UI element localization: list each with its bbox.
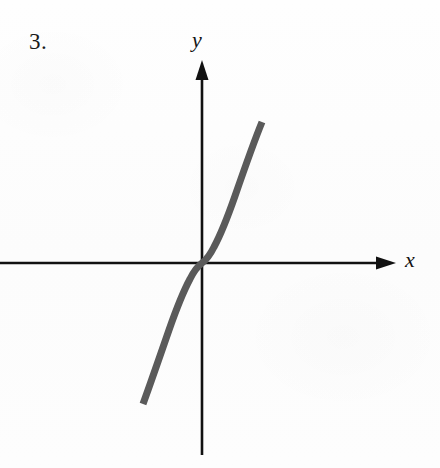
y-axis-label: y — [192, 29, 202, 51]
x-axis-arrowhead-icon — [376, 257, 396, 270]
graph-canvas — [0, 0, 440, 468]
figure-page: 3. y x — [0, 0, 440, 468]
x-axis-label: x — [405, 249, 415, 271]
y-axis-arrowhead-icon — [196, 60, 209, 80]
